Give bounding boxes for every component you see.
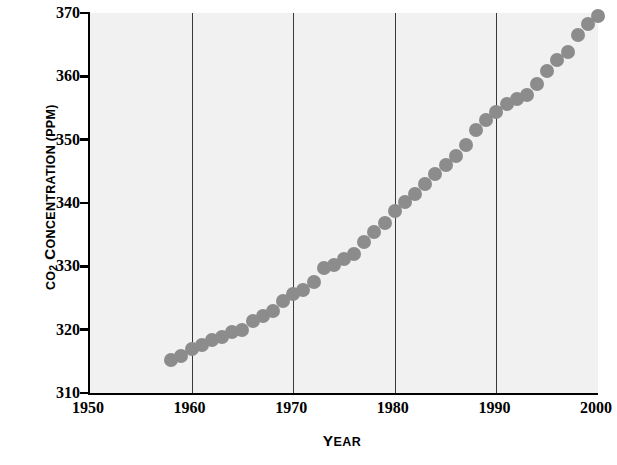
x-tick-label-1970: 1970	[251, 400, 331, 416]
data-point	[378, 216, 392, 230]
y-axis-tick-labels: 310320330340350360370	[22, 0, 80, 465]
data-point	[449, 149, 463, 163]
y-tick-mark-370	[80, 12, 90, 15]
y-tick-label-330: 330	[30, 258, 80, 274]
gridline-1990	[496, 13, 497, 393]
data-point	[571, 28, 585, 42]
data-point	[347, 247, 361, 261]
x-tick-label-1950: 1950	[48, 400, 128, 416]
y-tick-mark-360	[80, 75, 90, 78]
y-tick-label-370: 370	[30, 5, 80, 21]
x-axis-tick-labels: 195019601970198019902000	[0, 400, 612, 428]
data-point	[591, 9, 605, 23]
data-point	[561, 45, 575, 59]
x-tick-label-1960: 1960	[150, 400, 230, 416]
x-tick-label-1980: 1980	[353, 400, 433, 416]
gridline-1980	[395, 13, 396, 393]
y-tick-mark-320	[80, 328, 90, 331]
y-tick-mark-330	[80, 265, 90, 268]
x-axis-title: YEAR	[88, 432, 596, 450]
data-point	[520, 88, 534, 102]
data-point	[307, 275, 321, 289]
data-point	[530, 77, 544, 91]
x-axis-title-cap: Y	[323, 432, 334, 449]
y-tick-label-360: 360	[30, 68, 80, 84]
x-axis-title-rest: EAR	[334, 435, 362, 449]
gridline-1960	[192, 13, 193, 393]
data-point	[459, 138, 473, 152]
y-tick-label-340: 340	[30, 195, 80, 211]
y-tick-label-350: 350	[30, 132, 80, 148]
plot-area	[88, 13, 598, 395]
y-tick-mark-340	[80, 202, 90, 205]
y-tick-label-320: 320	[30, 322, 80, 338]
x-tick-label-2000: 2000	[556, 400, 617, 416]
gridline-1970	[293, 13, 294, 393]
data-point	[540, 64, 554, 78]
x-tick-label-1990: 1990	[454, 400, 534, 416]
y-tick-mark-350	[80, 138, 90, 141]
y-tick-mark-310	[80, 392, 90, 395]
plot-inner	[90, 13, 598, 393]
